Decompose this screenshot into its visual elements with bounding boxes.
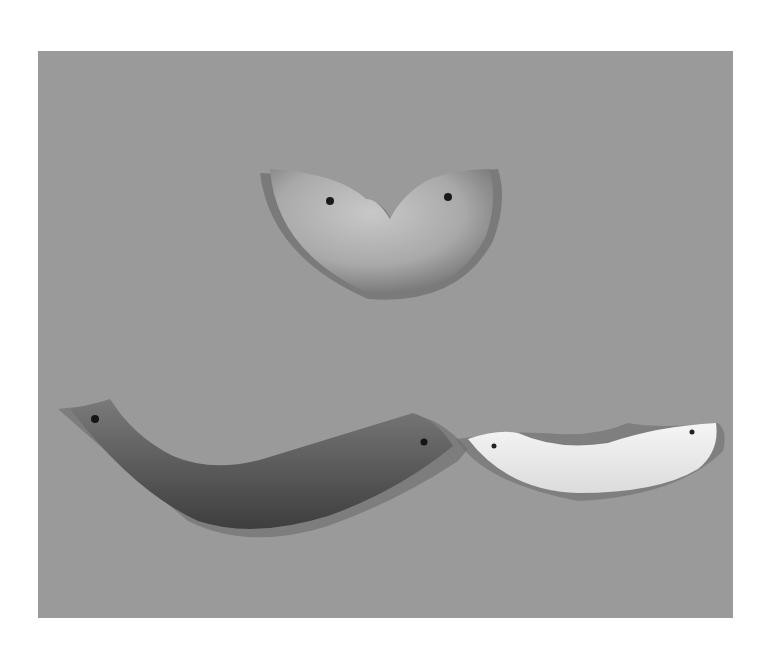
artifact-photo bbox=[38, 51, 733, 618]
drill-hole bbox=[690, 430, 695, 435]
bottom-right-pendant bbox=[456, 423, 725, 501]
bottom-left-pendant bbox=[58, 399, 468, 537]
drill-hole bbox=[444, 193, 452, 201]
drill-hole bbox=[91, 415, 99, 423]
top-pendant bbox=[260, 169, 502, 300]
drill-hole bbox=[421, 439, 428, 446]
drill-hole bbox=[492, 444, 497, 449]
drill-hole bbox=[326, 197, 334, 205]
